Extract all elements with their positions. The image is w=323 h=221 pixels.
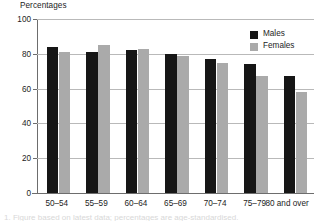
bar-females: [296, 92, 308, 193]
y-axis-title: Percentages: [20, 1, 67, 10]
bar-females: [177, 56, 189, 193]
legend-label: Males: [263, 30, 285, 38]
bar-males: [86, 52, 98, 193]
x-tick-label: 65–69: [156, 199, 196, 208]
bar-group: [205, 19, 229, 193]
legend-label: Females: [263, 42, 294, 50]
figure-caption-clipped: 1. Figure based on latest data; percenta…: [0, 214, 323, 221]
x-tick-label: 50–54: [37, 199, 77, 208]
bar-females: [256, 76, 268, 193]
x-tick-label: 55–59: [77, 199, 117, 208]
legend-item: Males: [250, 29, 294, 40]
y-tick-mark: [33, 19, 37, 20]
y-tick-label: 20: [22, 154, 31, 163]
bar-females: [138, 49, 150, 193]
figure-caption-text: 1. Figure based on latest data; percenta…: [4, 214, 238, 221]
bar-males: [47, 47, 59, 193]
bar-males: [284, 76, 296, 193]
x-tick-label: 80 and over: [265, 199, 308, 208]
y-tick-label: 100: [17, 15, 31, 24]
y-tick-label: 80: [22, 49, 31, 58]
bar-females: [98, 45, 110, 193]
x-tick-label: 70–74: [195, 199, 235, 208]
bar-group: [86, 19, 110, 193]
y-tick-mark: [33, 123, 37, 124]
bar-females: [217, 63, 229, 194]
bar-males: [165, 54, 177, 193]
bar-group: [47, 19, 71, 193]
bar-group: [126, 19, 150, 193]
bar-group: [165, 19, 189, 193]
x-tick-label: 60–64: [116, 199, 156, 208]
legend-item: Females: [250, 41, 294, 52]
y-tick-mark: [33, 158, 37, 159]
y-tick-label: 40: [22, 119, 31, 128]
legend-swatch-icon: [250, 31, 258, 39]
bar-males: [126, 50, 138, 193]
y-tick-mark: [33, 89, 37, 90]
y-tick-label: 60: [22, 84, 31, 93]
chart-legend: MalesFemales: [250, 29, 294, 53]
bar-males: [205, 59, 217, 193]
bar-chart-figure: Percentages 020406080100 50–5455–5960–64…: [0, 0, 323, 221]
bar-females: [59, 52, 71, 193]
y-tick-mark: [33, 54, 37, 55]
y-tick-label: 0: [26, 189, 31, 198]
bar-males: [244, 64, 256, 193]
x-axis-baseline: [32, 193, 314, 194]
legend-swatch-icon: [250, 43, 258, 51]
